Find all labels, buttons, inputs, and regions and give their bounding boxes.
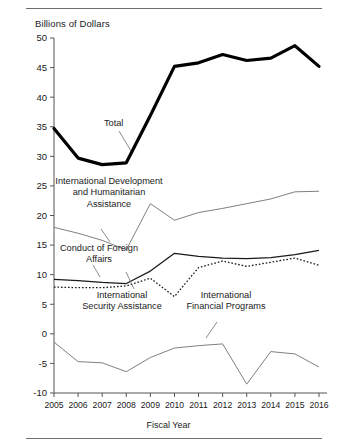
- x-tick-label: 2012: [213, 400, 232, 410]
- y-tick-label: 35: [36, 121, 47, 132]
- x-tick-label: 2013: [237, 400, 256, 410]
- y-tick-label: -10: [33, 387, 47, 398]
- figure-container: Billions of Dollars 50454035302520151050…: [0, 0, 337, 445]
- y-tick-label: 10: [36, 269, 47, 280]
- leader-line-conduct-of-foreign-affairs: [93, 265, 100, 277]
- y-tick-label: 25: [36, 180, 47, 191]
- annotation-international-financial-programs: International Financial Programs: [183, 290, 269, 313]
- y-tick-label: 20: [36, 210, 47, 221]
- y-tick-label: 5: [42, 299, 47, 310]
- series-line-total: [54, 46, 319, 165]
- x-tick-label: 2014: [261, 400, 280, 410]
- annotation-conduct-of-foreign-affairs: Conduct of Foreign Affairs: [56, 243, 142, 266]
- x-tick-label: 2008: [117, 400, 136, 410]
- y-tick-label: 0: [42, 328, 47, 339]
- x-tick-label: 2007: [93, 400, 112, 410]
- y-tick-label: 15: [36, 239, 47, 250]
- x-tick-label: 2011: [189, 400, 208, 410]
- y-tick-label: 50: [36, 32, 47, 43]
- x-tick-label: 2005: [44, 400, 63, 410]
- annotation-total: Total: [104, 118, 123, 129]
- y-tick-label: -5: [39, 358, 47, 369]
- x-tick-label: 2010: [165, 400, 184, 410]
- annotation-international-development: International Development and Humanitari…: [55, 176, 163, 210]
- x-tick-label: 2015: [285, 400, 304, 410]
- line-chart-plot: 50454035302520151050-5-10200520062007200…: [0, 0, 337, 445]
- leader-line-international-financial-programs: [206, 322, 217, 338]
- annotation-international-security-assistance: International Security Assistance: [79, 290, 165, 313]
- x-tick-label: 2009: [141, 400, 160, 410]
- y-tick-label: 45: [36, 62, 47, 73]
- x-axis-title: Fiscal Year: [0, 420, 337, 430]
- y-tick-label: 40: [36, 92, 47, 103]
- series-line-international-financial-programs: [54, 342, 319, 384]
- x-tick-label: 2016: [309, 400, 328, 410]
- x-tick-label: 2006: [69, 400, 88, 410]
- y-tick-label: 30: [36, 151, 47, 162]
- leader-line-total: [119, 131, 131, 151]
